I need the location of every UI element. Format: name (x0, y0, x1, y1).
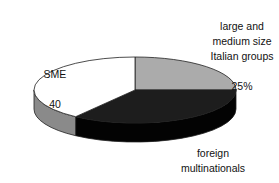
slice-label-text: large and medium size Italian groups (197, 19, 279, 64)
pie-chart: large and medium size Italian groups 25%… (0, 0, 279, 183)
slice-label-sme: SME 40 (24, 52, 86, 127)
slice-label-foreign-multinationals: foreign multinationals 35% (167, 131, 259, 183)
slice-label-text: foreign multinationals (167, 146, 259, 176)
slice-value: 25% (197, 79, 279, 94)
slice-label-text: SME (24, 67, 86, 82)
slice-value: 40 (24, 97, 86, 112)
slice-label-italian-groups: large and medium size Italian groups 25% (197, 4, 279, 109)
